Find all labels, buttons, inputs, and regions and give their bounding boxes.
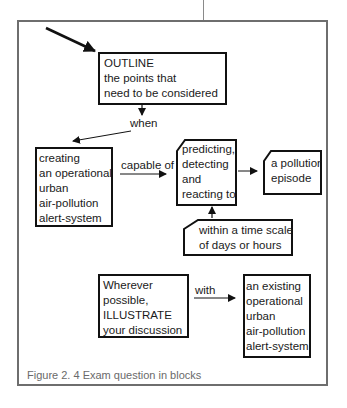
existing-system-line: air-pollution bbox=[246, 324, 308, 339]
outline-block: OUTLINE the points that need to be consi… bbox=[98, 52, 227, 105]
existing-system-line: urban bbox=[246, 309, 308, 324]
existing-system-line: operational bbox=[246, 294, 308, 309]
creating-line: air-pollution bbox=[39, 196, 109, 211]
predicting-line: reacting to bbox=[182, 187, 236, 202]
creating-line: alert-system bbox=[39, 211, 109, 226]
when-label: when bbox=[130, 116, 158, 130]
outline-line: the points that bbox=[104, 71, 221, 86]
predicting-line: and bbox=[182, 172, 236, 187]
creating-line: an operational bbox=[39, 166, 109, 181]
capable-of-label: capable of bbox=[121, 158, 174, 172]
time-scale-line: within a time scale bbox=[199, 223, 293, 238]
pollution-episode-line: episode bbox=[271, 171, 321, 186]
existing-system-block: an existing operational urban air-pollut… bbox=[243, 274, 311, 358]
figure-caption: Figure 2. 4 Exam question in blocks bbox=[27, 369, 201, 381]
illustrate-line: ILLUSTRATE bbox=[103, 308, 184, 323]
top-connector-line bbox=[203, 0, 204, 21]
creating-line: creating bbox=[39, 151, 109, 166]
existing-system-line: alert-system bbox=[246, 339, 308, 354]
predicting-block: predicting, detecting and reacting to bbox=[176, 139, 237, 206]
illustrate-line: your discussion bbox=[103, 323, 184, 338]
pollution-episode-line: a pollution bbox=[271, 156, 321, 171]
with-label: with bbox=[195, 283, 215, 297]
outline-line: need to be considered bbox=[104, 86, 221, 101]
time-scale-line: of days or hours bbox=[199, 238, 293, 253]
existing-system-line: an existing bbox=[246, 279, 308, 294]
illustrate-line: Wherever bbox=[103, 278, 184, 293]
pollution-episode-block: a pollution episode bbox=[263, 150, 322, 195]
predicting-line: predicting, bbox=[182, 142, 236, 157]
creating-block: creating an operational urban air-pollut… bbox=[35, 147, 113, 227]
outline-line: OUTLINE bbox=[104, 56, 221, 71]
predicting-line: detecting bbox=[182, 157, 236, 172]
creating-line: urban bbox=[39, 181, 109, 196]
illustrate-line: possible, bbox=[103, 293, 184, 308]
illustrate-block: Wherever possible, ILLUSTRATE your discu… bbox=[98, 274, 189, 338]
time-scale-block: within a time scale of days or hours bbox=[183, 219, 293, 256]
